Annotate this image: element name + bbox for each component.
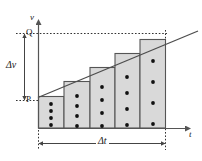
delta-t-label: Δt <box>96 136 109 146</box>
bar-4 <box>115 54 140 129</box>
dot <box>125 91 129 95</box>
dot <box>49 102 53 106</box>
dot <box>100 111 104 115</box>
dot <box>49 116 53 120</box>
dot <box>75 104 79 108</box>
bar-3 <box>90 68 115 129</box>
y-axis-label: v <box>30 13 34 22</box>
dot <box>125 123 129 127</box>
point-label-q: Q <box>26 28 33 37</box>
x-axis-label: t <box>189 130 192 139</box>
dot <box>100 98 104 102</box>
dot <box>75 94 79 98</box>
dot <box>125 107 129 111</box>
dot <box>151 80 155 84</box>
dot <box>75 114 79 118</box>
point-label-p: P <box>26 95 31 104</box>
dot <box>49 123 53 127</box>
dot <box>100 124 104 128</box>
dot <box>75 124 79 128</box>
dot <box>151 59 155 63</box>
dot <box>125 75 129 79</box>
delta-v-label: Δv <box>6 60 16 70</box>
dot <box>151 101 155 105</box>
dot <box>100 85 104 89</box>
dot <box>49 109 53 113</box>
velocity-time-riemann-figure: v t Q P Δv Δt <box>0 0 202 161</box>
dot <box>151 122 155 126</box>
